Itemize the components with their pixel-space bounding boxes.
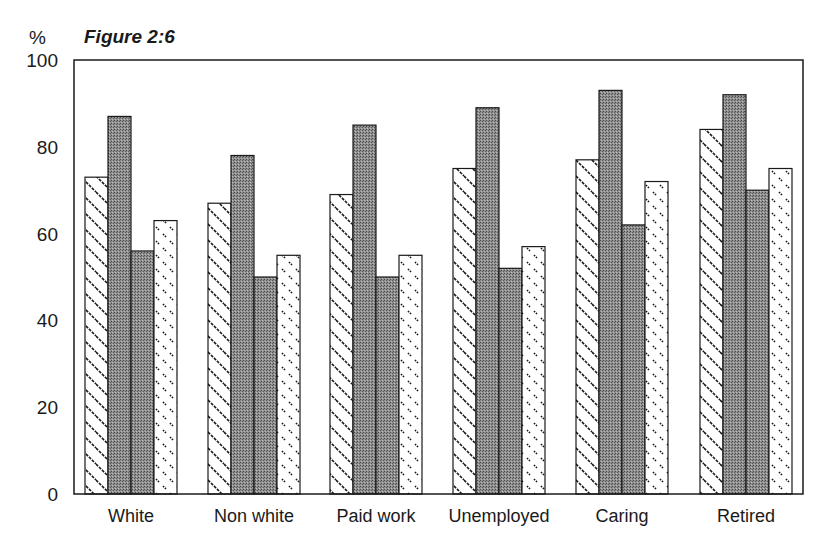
bar [131, 251, 154, 494]
bars-layer [85, 90, 792, 494]
bar [353, 125, 376, 494]
bar-chart: 020406080100 WhiteNon whitePaid workUnem… [0, 0, 829, 552]
plot-frame [74, 60, 803, 494]
bar [522, 247, 545, 494]
x-category-label: Non white [214, 506, 294, 526]
bar [208, 203, 231, 494]
x-category-label: Caring [595, 506, 648, 526]
y-tick-label: 80 [37, 137, 58, 158]
bar [622, 225, 645, 494]
x-category-label: Paid work [336, 506, 416, 526]
bar [231, 155, 254, 494]
bar [277, 255, 300, 494]
bar [108, 116, 131, 494]
bar [85, 177, 108, 494]
y-axis: 020406080100 [26, 50, 58, 505]
x-category-label: Unemployed [448, 506, 549, 526]
y-tick-label: 0 [47, 484, 58, 505]
bar [599, 90, 622, 494]
bar [746, 190, 769, 494]
bar [700, 129, 723, 494]
y-tick-label: 100 [26, 50, 58, 71]
bar [723, 95, 746, 494]
bar [154, 221, 177, 494]
bar [499, 268, 522, 494]
y-tick-label: 20 [37, 397, 58, 418]
x-category-label: Retired [717, 506, 775, 526]
x-category-label: White [108, 506, 154, 526]
bar [645, 182, 668, 494]
bar [476, 108, 499, 494]
x-axis: WhiteNon whitePaid workUnemployedCaringR… [108, 506, 775, 526]
bar [576, 160, 599, 494]
bar [399, 255, 422, 494]
bar [453, 169, 476, 495]
y-tick-label: 60 [37, 224, 58, 245]
y-tick-label: 40 [37, 310, 58, 331]
bar [330, 195, 353, 494]
bar [254, 277, 277, 494]
bar [376, 277, 399, 494]
bar [769, 169, 792, 495]
